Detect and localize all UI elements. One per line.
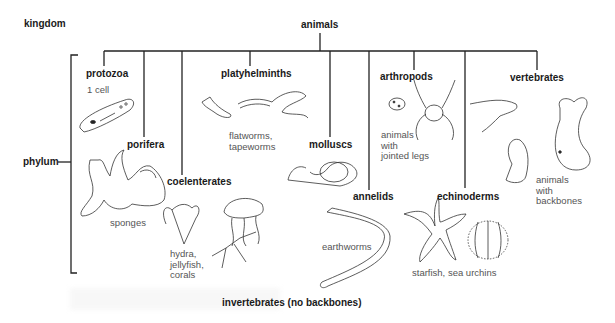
animals-node: animals bbox=[301, 19, 338, 30]
phylum-arthropods: arthropods bbox=[380, 71, 433, 82]
phylum-coelenterates: coelenterates bbox=[167, 176, 231, 187]
whale-icon bbox=[470, 98, 590, 183]
phylum-porifera: porifera bbox=[127, 139, 164, 150]
desc-echinoderms: starfish, sea urchins bbox=[412, 268, 496, 279]
sponge-icon bbox=[81, 150, 165, 216]
desc-porifera: sponges bbox=[110, 218, 146, 229]
desc-coelenterates: hydra, jellyfish, corals bbox=[170, 249, 204, 281]
invertebrates-caption: invertebrates (no backbones) bbox=[222, 297, 361, 308]
tree-connectors bbox=[0, 0, 615, 323]
phylum-label: phylum bbox=[23, 156, 59, 167]
phylum-annelids: annelids bbox=[353, 191, 394, 202]
desc-vertebrates: animals with backbones bbox=[536, 175, 582, 207]
paramecium-icon bbox=[80, 99, 134, 132]
desc-protozoa: 1 cell bbox=[87, 85, 109, 96]
phylum-molluscs: molluscs bbox=[309, 139, 352, 150]
starfish-icon bbox=[404, 198, 508, 262]
snail-icon bbox=[288, 162, 357, 186]
kingdom-label: kingdom bbox=[24, 18, 66, 29]
phylum-vertebrates: vertebrates bbox=[510, 72, 564, 83]
phylum-echinoderms: echinoderms bbox=[437, 191, 499, 202]
desc-platyhelminths: flatworms, tapeworms bbox=[229, 131, 275, 152]
phylum-platyhelminths: platyhelminths bbox=[221, 68, 292, 79]
phylum-protozoa: protozoa bbox=[86, 68, 128, 79]
desc-arthropods: animals with jointed legs bbox=[381, 130, 429, 162]
desc-annelids: earthworms bbox=[322, 242, 372, 253]
flatworm-icon bbox=[202, 92, 308, 118]
